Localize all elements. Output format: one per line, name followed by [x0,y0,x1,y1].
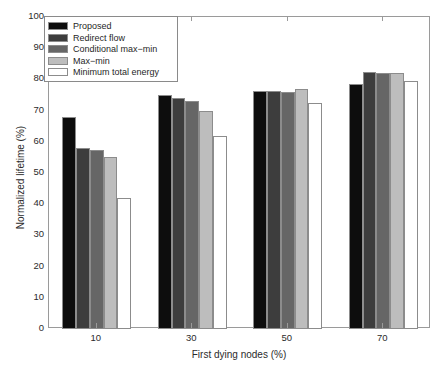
legend-label-proposed: Proposed [73,21,112,31]
y-tick-label-70: 70 [0,105,44,115]
legend: Proposed Redirect flow Conditional max−m… [44,16,178,82]
legend-item-max-min: Max−min [48,55,173,66]
x-tick-mark-70 [382,323,383,328]
legend-label-redirect-flow: Redirect flow [73,33,125,43]
legend-swatch-conditional-max-min [48,45,68,53]
bar [349,84,363,329]
y-tick-label-60: 60 [0,136,44,146]
legend-swatch-proposed [48,22,68,30]
legend-label-max-min: Max−min [73,56,110,66]
legend-swatch-minimum-total-energy [48,68,68,76]
bar [253,91,267,329]
bar [199,111,213,329]
legend-item-proposed: Proposed [48,21,173,32]
bar [158,95,172,329]
y-tick-label-50: 50 [0,167,44,177]
bar [404,81,418,329]
bar [185,101,199,329]
legend-item-redirect-flow: Redirect flow [48,32,173,43]
legend-item-minimum-total-energy: Minimum total energy [48,67,173,78]
bar [172,98,186,329]
x-tick-label-10: 10 [76,333,116,343]
bar [363,72,377,329]
bar [308,103,322,329]
legend-swatch-redirect-flow [48,34,68,42]
legend-swatch-max-min [48,57,68,65]
y-tick-label-0: 0 [0,323,44,333]
x-axis-label: First dying nodes (%) [48,349,430,360]
bar [62,117,76,329]
y-tick-label-100: 100 [0,11,44,21]
x-tick-mark-50 [287,323,288,328]
legend-item-conditional-max-min: Conditional max−min [48,44,173,55]
bar [390,73,404,329]
y-tick-label-20: 20 [0,261,44,271]
x-tick-label-70: 70 [362,333,402,343]
bar [281,92,295,329]
y-tick-label-90: 90 [0,42,44,52]
y-tick-label-40: 40 [0,198,44,208]
y-tick-label-10: 10 [0,292,44,302]
x-tick-label-50: 50 [267,333,307,343]
x-tick-mark-top-70 [382,16,383,21]
bar [117,198,131,329]
bar-chart-figure: Normalized lifetime (%) 0102030405060708… [0,0,446,373]
bar [213,136,227,329]
y-tick-label-80: 80 [0,74,44,84]
bar [76,148,90,329]
x-tick-mark-top-30 [191,16,192,21]
legend-label-minimum-total-energy: Minimum total energy [73,67,159,77]
bar [376,73,390,329]
x-tick-label-30: 30 [171,333,211,343]
x-tick-mark-10 [96,323,97,328]
bar [295,89,309,329]
bar [267,91,281,329]
bar [90,150,104,329]
y-tick-label-30: 30 [0,230,44,240]
x-tick-mark-30 [191,323,192,328]
legend-label-conditional-max-min: Conditional max−min [73,44,157,54]
x-tick-mark-top-50 [287,16,288,21]
bar [104,157,118,329]
